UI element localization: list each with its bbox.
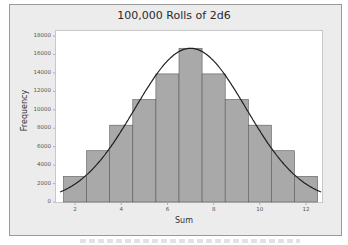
caption-text-faded [80,239,300,243]
y-tick-label: 8000 [7,124,51,130]
x-tick-label: 2 [65,206,85,212]
bar-sum-9 [225,100,248,202]
y-tick-label: 0 [7,198,51,204]
y-tick-label: 10000 [7,106,51,112]
bar-sum-10 [248,125,271,202]
x-tick-label: 6 [157,206,177,212]
bar-sum-3 [87,151,110,202]
y-tick-label: 16000 [7,50,51,56]
x-tick-label: 10 [250,206,270,212]
bar-sum-8 [202,74,225,202]
y-axis-label: Frequency [20,81,29,141]
bar-sum-6 [156,74,179,202]
y-tick-label: 2000 [7,180,51,186]
x-axis-label: Sum [175,216,193,225]
bar-sum-11 [271,151,294,202]
x-tick-label: 12 [296,206,316,212]
bar-sum-5 [133,100,156,202]
y-tick-label: 18000 [7,32,51,38]
x-tick-label: 8 [204,206,224,212]
y-tick-label: 6000 [7,143,51,149]
x-tick-label: 4 [111,206,131,212]
bar-sum-4 [110,125,133,202]
y-tick-label: 14000 [7,69,51,75]
y-tick-label: 12000 [7,87,51,93]
bar-sum-7 [179,48,202,202]
y-tick-label: 4000 [7,161,51,167]
histogram-bars [64,48,318,202]
